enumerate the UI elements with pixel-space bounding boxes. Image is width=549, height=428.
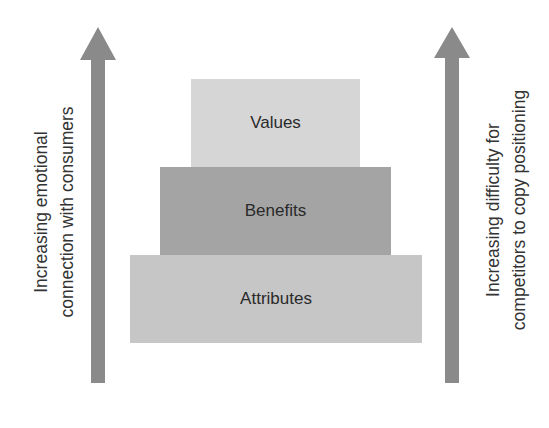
left-up-arrow-icon: [78, 24, 120, 386]
level-attributes: Attributes: [130, 255, 422, 343]
level-benefits-label: Benefits: [245, 201, 306, 221]
right-axis-label-line-1: Increasing difficulty for: [480, 90, 506, 330]
level-values: Values: [191, 79, 360, 167]
right-axis-label: Increasing difficulty for competitors to…: [480, 90, 532, 330]
level-benefits: Benefits: [160, 167, 391, 255]
level-values-label: Values: [250, 113, 301, 133]
level-attributes-label: Attributes: [240, 289, 312, 309]
left-axis-label: Increasing emotional connection with con…: [28, 106, 80, 317]
right-up-arrow-icon: [432, 24, 474, 386]
right-axis-label-line-2: competitors to copy positioning: [506, 90, 532, 330]
left-axis-label-line-2: connection with consumers: [54, 106, 80, 317]
left-axis-label-line-1: Increasing emotional: [28, 106, 54, 317]
